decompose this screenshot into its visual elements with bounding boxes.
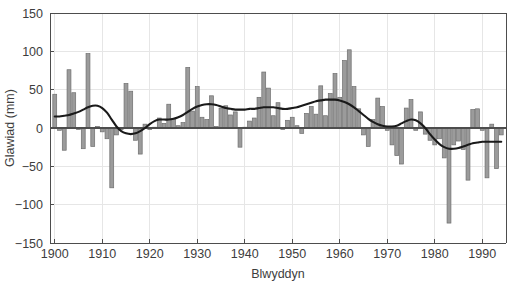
bar-1993 <box>495 128 499 169</box>
x-tick-label-1990: 1990 <box>468 247 496 261</box>
x-tick-label-1980: 1980 <box>421 247 449 261</box>
bar-1962 <box>347 50 351 128</box>
x-tick-label-1970: 1970 <box>373 247 401 261</box>
bar-1927 <box>181 123 185 128</box>
bar-1937 <box>229 115 233 128</box>
bar-1953 <box>305 113 309 128</box>
bar-1981 <box>438 128 442 139</box>
bar-1988 <box>471 110 475 128</box>
bar-1933 <box>210 96 214 128</box>
bar-1984 <box>452 128 456 145</box>
y-tick-label-100: 100 <box>22 45 43 59</box>
bar-1952 <box>300 128 304 133</box>
bar-1923 <box>162 123 166 128</box>
bar-1916 <box>129 91 133 128</box>
bar-1944 <box>262 72 266 128</box>
bar-1929 <box>191 111 195 128</box>
bar-1928 <box>186 67 190 128</box>
bar-1910 <box>100 128 104 132</box>
bar-1961 <box>343 61 347 128</box>
x-tick-label-1910: 1910 <box>88 247 116 261</box>
x-tick-label-1960: 1960 <box>326 247 354 261</box>
y-tick-label--50: −50 <box>22 160 43 174</box>
bar-1987 <box>466 128 470 180</box>
bar-1931 <box>200 117 204 128</box>
bar-1904 <box>72 93 76 128</box>
y-axis-title: Glawiad (mm) <box>3 89 17 167</box>
bar-1912 <box>110 128 114 188</box>
bar-1907 <box>86 54 90 128</box>
bar-1925 <box>172 119 176 128</box>
x-tick-label-1900: 1900 <box>41 247 69 261</box>
bar-1911 <box>105 128 109 139</box>
y-tick-label-0: 0 <box>36 122 43 136</box>
bar-1985 <box>457 128 461 141</box>
bar-1965 <box>362 128 366 135</box>
bar-1983 <box>447 128 451 223</box>
bar-1966 <box>366 128 370 146</box>
x-tick-label-1950: 1950 <box>278 247 306 261</box>
bar-1941 <box>248 121 252 128</box>
bar-1946 <box>271 116 275 128</box>
bar-1956 <box>319 86 323 128</box>
bar-1960 <box>338 97 342 128</box>
bar-1982 <box>442 128 446 158</box>
bar-1971 <box>390 128 394 145</box>
bar-1973 <box>400 128 404 164</box>
x-tick-label-1920: 1920 <box>136 247 164 261</box>
bar-1955 <box>314 114 318 128</box>
bar-1950 <box>290 117 294 128</box>
bar-1935 <box>219 108 223 128</box>
bar-1949 <box>286 120 290 128</box>
bar-1942 <box>252 118 256 128</box>
bar-1924 <box>167 104 171 128</box>
bar-1991 <box>485 128 489 178</box>
bar-1974 <box>404 108 408 128</box>
bar-1972 <box>395 128 399 156</box>
y-tick-label--100: −100 <box>15 198 43 212</box>
bar-1903 <box>67 70 71 128</box>
bar-1932 <box>205 120 209 128</box>
bar-1915 <box>124 84 128 128</box>
bar-1957 <box>324 116 328 128</box>
y-tick-label-150: 150 <box>22 7 43 21</box>
bar-1989 <box>476 109 480 128</box>
x-tick-label-1930: 1930 <box>183 247 211 261</box>
y-tick-label-50: 50 <box>29 83 43 97</box>
bar-1943 <box>257 97 261 128</box>
bar-1902 <box>62 128 66 150</box>
bar-1900 <box>53 94 57 128</box>
rainfall-anomaly-figure: −150−100−5005010015019001910192019301940… <box>0 0 517 287</box>
bar-1938 <box>233 112 237 128</box>
bar-1947 <box>276 103 280 128</box>
bar-1975 <box>409 100 413 128</box>
y-tick-label--150: −150 <box>15 237 43 251</box>
bar-1908 <box>91 128 95 146</box>
x-axis-title: Blwyddyn <box>251 267 305 281</box>
bar-1939 <box>238 128 242 147</box>
bar-1906 <box>81 128 85 149</box>
bar-1994 <box>499 128 503 135</box>
bar-1954 <box>309 107 313 128</box>
rainfall-anomaly-chart: −150−100−5005010015019001910192019301940… <box>0 0 517 287</box>
x-tick-label-1940: 1940 <box>231 247 259 261</box>
bar-1992 <box>490 124 494 128</box>
